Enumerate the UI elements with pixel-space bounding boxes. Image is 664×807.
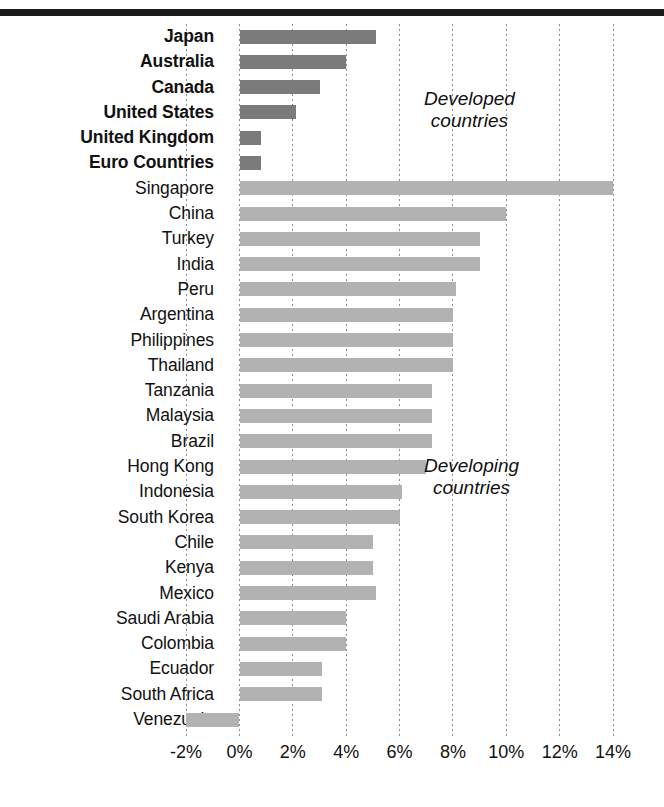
x-axis-tick-label: 6% (387, 742, 413, 763)
bar-row: Mexico (0, 581, 664, 606)
bar (240, 535, 373, 549)
bar-label: Chile (0, 530, 214, 555)
bar (240, 384, 432, 398)
x-axis-tick-label: 10% (488, 742, 524, 763)
bar (240, 55, 347, 69)
bar-label: Venezuela (0, 707, 214, 732)
bar-label: Tanzania (0, 378, 214, 403)
bar-label: Peru (0, 277, 214, 302)
bar-label: Malaysia (0, 403, 214, 428)
bar-row: Malaysia (0, 403, 664, 428)
bar-label: Kenya (0, 555, 214, 580)
x-axis-tick-label: 0% (226, 742, 252, 763)
x-axis-tick-label: 4% (333, 742, 359, 763)
x-axis-tick-label: 2% (280, 742, 306, 763)
bar-row: Indonesia (0, 479, 664, 504)
annotation-developed-countries: Developed countries (424, 88, 515, 132)
bar (240, 586, 376, 600)
bar (240, 156, 261, 170)
bar-row: Thailand (0, 353, 664, 378)
top-rule-divider (0, 9, 664, 16)
bar (240, 80, 320, 94)
bar-label: Brazil (0, 429, 214, 454)
bar-label: Australia (0, 49, 214, 74)
bar-row: Kenya (0, 555, 664, 580)
bar (240, 561, 373, 575)
bar-label: South Korea (0, 505, 214, 530)
bar-label: Indonesia (0, 479, 214, 504)
bar-label: Thailand (0, 353, 214, 378)
annotation-developing-countries: Developing countries (424, 455, 519, 499)
x-axis-tick-label: 12% (542, 742, 578, 763)
bar (240, 510, 400, 524)
bar (240, 181, 614, 195)
bar-label: Turkey (0, 226, 214, 251)
bar-label: Philippines (0, 328, 214, 353)
bar-label: Euro Countries (0, 150, 214, 175)
bar-label: Canada (0, 75, 214, 100)
bar (240, 131, 261, 145)
bar (240, 232, 480, 246)
bar-label: United States (0, 100, 214, 125)
bar (240, 358, 453, 372)
bar (240, 333, 453, 347)
bar (186, 713, 239, 727)
bar-row: India (0, 252, 664, 277)
bar (240, 308, 453, 322)
bar-row: Japan (0, 24, 664, 49)
bar-label: Japan (0, 24, 214, 49)
bar-row: Hong Kong (0, 454, 664, 479)
bar-row: Brazil (0, 429, 664, 454)
bar-label: China (0, 201, 214, 226)
bar-row: Argentina (0, 302, 664, 327)
bar-row: Peru (0, 277, 664, 302)
bar-row: Turkey (0, 226, 664, 251)
bar-row: Philippines (0, 328, 664, 353)
bar-row: Saudi Arabia (0, 606, 664, 631)
bar (240, 409, 432, 423)
bar (240, 105, 296, 119)
x-axis-tick-label: 8% (440, 742, 466, 763)
bar (240, 257, 480, 271)
bar-row: South Africa (0, 682, 664, 707)
plot-area: JapanAustraliaCanadaUnited StatesUnited … (0, 24, 664, 736)
bar-row: Tanzania (0, 378, 664, 403)
x-axis-tick-label: -2% (170, 742, 202, 763)
bar-row: Canada (0, 75, 664, 100)
bar-label: Mexico (0, 581, 214, 606)
bar-row: Singapore (0, 176, 664, 201)
bar (240, 282, 456, 296)
bar-row: China (0, 201, 664, 226)
bar-label: Saudi Arabia (0, 606, 214, 631)
bar-label: United Kingdom (0, 125, 214, 150)
bar (240, 662, 323, 676)
bar (240, 485, 403, 499)
x-axis: -2%0%2%4%6%8%10%12%14% (0, 742, 664, 772)
bar (240, 207, 507, 221)
bar-label: Singapore (0, 176, 214, 201)
x-axis-tick-label: 14% (595, 742, 631, 763)
bar-label: Hong Kong (0, 454, 214, 479)
bar-chart: JapanAustraliaCanadaUnited StatesUnited … (0, 0, 664, 807)
bar-label: Argentina (0, 302, 214, 327)
bar-label: Colombia (0, 631, 214, 656)
bar (240, 30, 376, 44)
bar-row: South Korea (0, 505, 664, 530)
bar-row: Ecuador (0, 656, 664, 681)
bar (240, 637, 347, 651)
bar (240, 460, 427, 474)
bar-row: Euro Countries (0, 150, 664, 175)
bar-row: United Kingdom (0, 125, 664, 150)
bar-label: Ecuador (0, 656, 214, 681)
bar-label: South Africa (0, 682, 214, 707)
bar-row: United States (0, 100, 664, 125)
bar-row: Chile (0, 530, 664, 555)
bar-label: India (0, 252, 214, 277)
bar (240, 611, 347, 625)
bar (240, 434, 432, 448)
bar-row: Australia (0, 49, 664, 74)
bar-row: Colombia (0, 631, 664, 656)
bar-row: Venezuela (0, 707, 664, 732)
bar (240, 687, 323, 701)
